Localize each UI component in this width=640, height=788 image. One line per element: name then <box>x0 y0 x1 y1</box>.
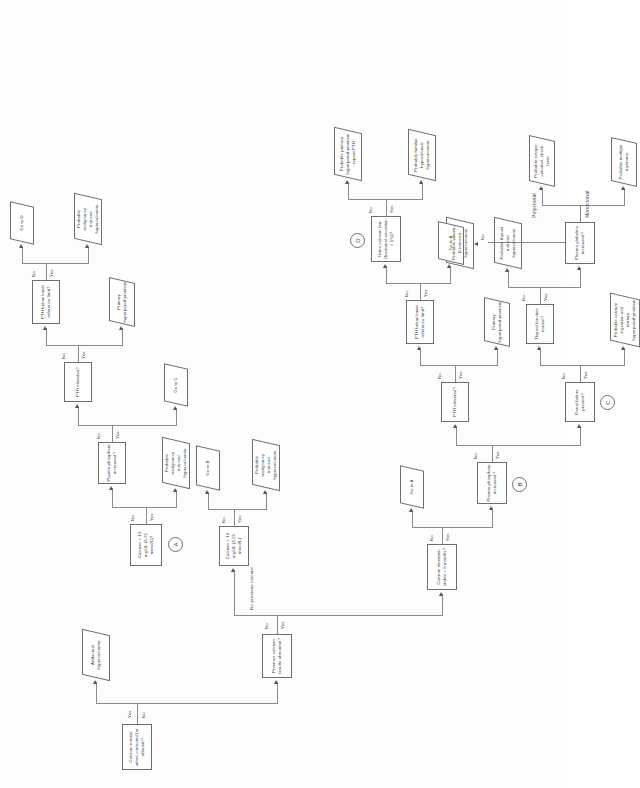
edge-label-pthmid-yes: Yes <box>458 371 463 379</box>
node-primary-hyperparathyroidism-mid: Primary hyperparathyroidism <box>484 300 510 344</box>
edge-label-pthbelowtop-yes: Yes <box>49 269 54 277</box>
edge-label-ca-stable-no: No <box>429 535 434 541</box>
node-probable-thyroid-induced: Probable thyroid induced hypercalcemia <box>494 220 522 266</box>
edge-to-prob-malig-3 <box>88 246 89 264</box>
node-calcium-13-low-label: Calcium > 13 mg/dL (3.25 mmol/L) <box>225 528 242 564</box>
edge-noprev-h2 <box>234 570 235 616</box>
edge-label-ca13low-yes: Yes <box>237 515 242 523</box>
edge-ca13low-yes-v <box>234 509 266 510</box>
arrow-to-prev-results <box>274 680 278 684</box>
edge-label-phosb-yes: Yes <box>495 451 500 459</box>
edge-label-ca13high-no: No <box>130 515 135 521</box>
node-artifactual-hypercalcemia: Artifactual hypercalcemia <box>82 632 110 678</box>
node-thyroid-function-label: Thyroid function normal? <box>534 306 546 342</box>
node-go-to-c: Go to C <box>164 366 188 404</box>
edge-label-pthmid-no: No <box>437 373 442 379</box>
edge-to-go-to-b <box>208 492 209 510</box>
edge-urine-yes-v <box>386 199 422 200</box>
edge-start-no-v <box>137 703 277 704</box>
edge-to-pth-below-top <box>46 328 47 346</box>
node-plasma-phosphate-b: Plasma phosphate increased? <box>477 462 507 504</box>
edge-ca-stable-no-v <box>412 527 442 528</box>
node-primary-hyperparathyroidism-top: Primary hyperparathyroidism <box>109 280 135 324</box>
arrow-to-prob-malig-2 <box>173 488 177 492</box>
edge-label-ca-stable-yes: Yes <box>445 533 450 541</box>
edge-to-prob-malig-2 <box>176 490 177 508</box>
node-start-label: Calcium normal when corrected for albumi… <box>128 726 145 768</box>
edge-to-renal-failure <box>580 426 581 446</box>
arrow-to-prob-malig-3 <box>85 244 89 248</box>
node-urine-calcium-low-label: Urine calcium low (fractional excretion … <box>377 218 394 260</box>
node-c-label: C <box>605 400 611 404</box>
node-pth-below-reference-mid: PTH below lower reference limit? <box>406 300 434 344</box>
edge-to-prob-primary-repeat <box>348 182 349 200</box>
node-go-to-b: Go to B <box>196 448 220 488</box>
edge-label-vitd-no: No <box>480 234 485 240</box>
edge-label-prev-no: No <box>264 623 269 629</box>
node-probable-malignancy-2: Probable malignancy induced hypercalcemi… <box>162 440 190 486</box>
edge-label-phosa-no: No <box>96 433 101 439</box>
node-probable-multiple-myeloma-label: Probable multiple myeloma <box>618 141 630 183</box>
edge-to-thyroid-fn <box>540 348 541 366</box>
edge-to-plasma-phos-a <box>112 488 113 508</box>
edge-pthbelowtop-no-v <box>22 263 46 264</box>
node-probable-primary-repeat-pth-label: Probable primary hyperparathyroidism - r… <box>339 131 356 178</box>
edge-label-pthbelowtop-no: No <box>31 271 36 277</box>
edge-label-ca13high-yes: Yes <box>149 513 154 521</box>
node-previous-results-label: Previous calcium results abnormal? <box>271 636 283 676</box>
node-plasma-phosphate-a: Plasma phosphate increased? <box>98 442 126 484</box>
arrow-to-artifactual <box>93 680 97 684</box>
edge-label-ca13low-no: No <box>221 517 226 523</box>
node-probable-malignancy-3: Probable malignancy induced hypercalcemi… <box>74 196 102 242</box>
edge-to-prob-ectopic <box>542 188 543 206</box>
node-pth-below-reference-top: PTH below lower reference limit? <box>32 280 60 324</box>
edge-to-prob-familial <box>422 182 423 200</box>
arrow-to-prob-vitd <box>474 242 478 246</box>
node-b-label: B <box>517 483 523 487</box>
edge-phosb-yes-v <box>492 445 580 446</box>
edge-label-renal-no: No <box>561 373 566 379</box>
edge-ca-stable-yes-v <box>442 527 492 528</box>
edge-renal-yes-v <box>580 365 624 366</box>
node-pth-elevated-top: PTH elevated? <box>64 362 92 402</box>
edge-to-prob-ca-ingestion <box>624 348 625 366</box>
edge-label-glob-monoclonal: Monoclonal <box>584 190 590 218</box>
arrow-to-pth-elev-mid <box>453 424 457 428</box>
node-probable-ectopic-calcitriol-label: Probable ectopic calcitriol, check level <box>533 139 550 183</box>
edge-label-phosb-no: No <box>473 453 478 459</box>
node-go-to-c-label: Go to C <box>173 374 179 396</box>
edge-to-primary-hpt-mid <box>497 348 498 366</box>
edge-label-prev-yes: Yes <box>280 621 285 629</box>
edge-ca-stable-out <box>442 528 443 544</box>
arrow-to-prob-ectopic <box>539 186 543 190</box>
node-go-to-d: Go to D <box>10 204 34 242</box>
edge-pthbelowmid-yes-v <box>420 283 450 284</box>
node-probable-familial-hypocalciuric: Probably familial hypocalciuric hypercal… <box>408 132 436 178</box>
edge-pthmid-yes-v <box>455 365 497 366</box>
arrow-to-prob-malig-1 <box>263 490 267 494</box>
edge-pthtop-out <box>78 346 79 362</box>
edge-to-prev-results <box>277 682 278 704</box>
edge-prev-yes-v <box>277 615 442 616</box>
node-probable-malignancy-1-label: Probable malignancy induced hypercalcemi… <box>254 443 277 487</box>
edge-pthtop-yes-v <box>78 345 122 346</box>
node-probable-calcium-ingestion: Probable calcium ingestion and tertiary … <box>610 296 640 344</box>
node-probable-multiple-myeloma: Probable multiple myeloma <box>611 140 637 184</box>
node-probable-malignancy-2-label: Probable malignancy induced hypercalcemi… <box>164 441 187 485</box>
edge-ca13high-yes-v <box>146 507 176 508</box>
edge-prev-out <box>277 616 278 634</box>
arrow-to-go-to-b <box>205 490 209 494</box>
edge-label-urine-yes: Yes <box>389 205 394 213</box>
node-pth-elevated-top-label: PTH elevated? <box>75 367 81 397</box>
edge-to-primary-hpt-top <box>122 328 123 346</box>
edge-pthbelowtop-yes-v <box>46 263 88 264</box>
edge-to-go-to-a-1 <box>412 510 413 528</box>
node-probable-vitamin-d-induced-label: Probable vitamin D induced hypercalcemia <box>451 221 468 265</box>
edge-to-urine-ca <box>386 266 387 284</box>
edge-thyroid-out <box>540 288 541 304</box>
node-renal-failure-label: Renal failure present? <box>574 384 586 420</box>
arrow-to-plasma-glob <box>577 266 581 270</box>
node-go-to-d-label: Go to D <box>19 212 25 234</box>
node-c-connector: C <box>600 395 615 410</box>
edge-label-renal-yes: Yes <box>583 371 588 379</box>
